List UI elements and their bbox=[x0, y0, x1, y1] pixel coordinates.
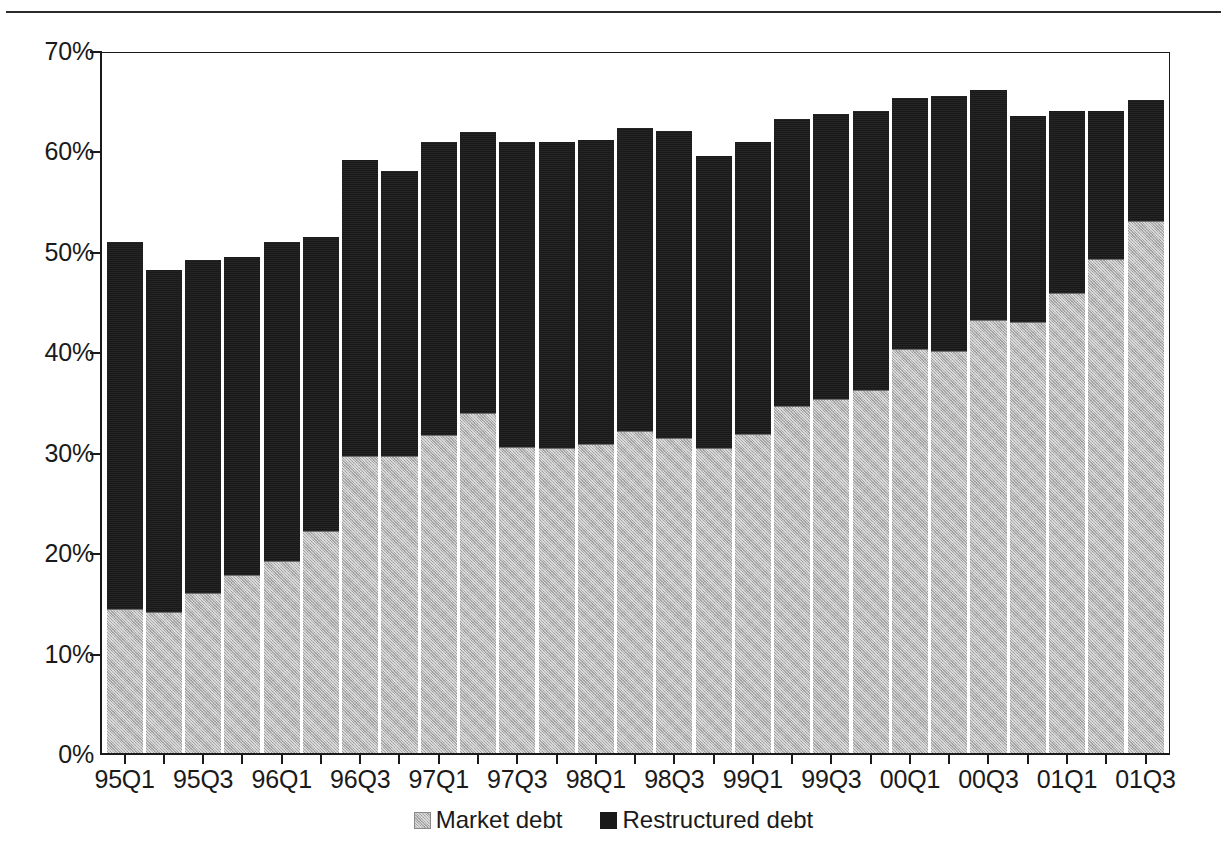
bar-column[interactable] bbox=[381, 53, 417, 753]
bar-segment-market-debt bbox=[813, 399, 849, 754]
bar-segment-market-debt bbox=[185, 593, 221, 753]
bar-segment-restructured-debt bbox=[381, 171, 417, 456]
bar-segment-market-debt bbox=[1010, 322, 1046, 753]
bar-column[interactable] bbox=[185, 53, 221, 753]
bar-column[interactable] bbox=[735, 53, 771, 753]
bar-segment-market-debt bbox=[264, 561, 300, 753]
restructured-debt-swatch bbox=[600, 812, 617, 829]
bar-column[interactable] bbox=[1049, 53, 1085, 753]
bar-segment-restructured-debt bbox=[578, 140, 614, 443]
bar-column[interactable] bbox=[421, 53, 457, 753]
bar-segment-restructured-debt bbox=[421, 142, 457, 434]
bar-segment-market-debt bbox=[381, 456, 417, 753]
bar-segment-market-debt bbox=[735, 434, 771, 753]
bar-column[interactable] bbox=[107, 53, 143, 753]
bar-segment-restructured-debt bbox=[735, 142, 771, 433]
bar-column[interactable] bbox=[1088, 53, 1124, 753]
bar-column[interactable] bbox=[1128, 53, 1164, 753]
x-tick-mark bbox=[1145, 755, 1147, 764]
x-tick-mark bbox=[516, 755, 518, 764]
bar-segment-restructured-debt bbox=[931, 96, 967, 351]
bar-segment-restructured-debt bbox=[264, 242, 300, 561]
bar-segment-market-debt bbox=[224, 575, 260, 753]
x-tick-mark bbox=[477, 755, 479, 764]
bar-column[interactable] bbox=[813, 53, 849, 753]
x-tick-mark bbox=[713, 755, 715, 764]
bar-column[interactable] bbox=[264, 53, 300, 753]
bar-column[interactable] bbox=[303, 53, 339, 753]
bar-segment-market-debt bbox=[342, 456, 378, 753]
bar-segment-market-debt bbox=[303, 531, 339, 753]
stacked-bar-chart: 0%10%20%30%40%50%60%70% 95Q195Q396Q196Q3… bbox=[0, 0, 1227, 867]
bar-segment-restructured-debt bbox=[499, 142, 535, 446]
x-tick-mark bbox=[202, 755, 204, 764]
y-tick-label: 40% bbox=[14, 340, 94, 365]
bar-column[interactable] bbox=[499, 53, 535, 753]
bar-column[interactable] bbox=[656, 53, 692, 753]
y-tick-label: 50% bbox=[14, 240, 94, 265]
x-tick-mark bbox=[281, 755, 283, 764]
bar-column[interactable] bbox=[578, 53, 614, 753]
bar-column[interactable] bbox=[224, 53, 260, 753]
x-tick-mark bbox=[359, 755, 361, 764]
bar-column[interactable] bbox=[970, 53, 1006, 753]
bar-series-container bbox=[102, 53, 1169, 753]
bar-segment-restructured-debt bbox=[970, 90, 1006, 320]
bar-segment-restructured-debt bbox=[460, 132, 496, 412]
bar-segment-market-debt bbox=[931, 351, 967, 753]
bar-segment-restructured-debt bbox=[656, 131, 692, 437]
bar-column[interactable] bbox=[1010, 53, 1046, 753]
legend-item-market-debt[interactable]: Market debt bbox=[414, 806, 563, 834]
bar-segment-market-debt bbox=[107, 609, 143, 753]
x-tick-mark bbox=[595, 755, 597, 764]
x-tick-mark bbox=[124, 755, 126, 764]
bar-segment-restructured-debt bbox=[853, 111, 889, 390]
bar-column[interactable] bbox=[774, 53, 810, 753]
bar-segment-restructured-debt bbox=[1128, 100, 1164, 221]
x-tick-mark bbox=[673, 755, 675, 764]
bar-segment-restructured-debt bbox=[774, 119, 810, 405]
legend-label-market-debt: Market debt bbox=[436, 806, 563, 834]
bar-column[interactable] bbox=[696, 53, 732, 753]
y-tick-label: 10% bbox=[14, 642, 94, 667]
bar-segment-market-debt bbox=[539, 448, 575, 753]
x-tick-mark bbox=[791, 755, 793, 764]
bar-segment-restructured-debt bbox=[342, 160, 378, 455]
x-tick-mark bbox=[752, 755, 754, 764]
bar-column[interactable] bbox=[617, 53, 653, 753]
bar-segment-restructured-debt bbox=[303, 237, 339, 531]
y-tick-label: 20% bbox=[14, 541, 94, 566]
bar-column[interactable] bbox=[539, 53, 575, 753]
x-tick-mark bbox=[1105, 755, 1107, 764]
bar-column[interactable] bbox=[146, 53, 182, 753]
bar-segment-market-debt bbox=[1088, 259, 1124, 753]
x-tick-mark bbox=[830, 755, 832, 764]
y-tick-label: 60% bbox=[14, 139, 94, 164]
x-tick-mark bbox=[1066, 755, 1068, 764]
bar-segment-restructured-debt bbox=[1088, 111, 1124, 259]
bar-segment-market-debt bbox=[696, 448, 732, 753]
bar-column[interactable] bbox=[931, 53, 967, 753]
bar-segment-restructured-debt bbox=[107, 242, 143, 610]
bar-segment-restructured-debt bbox=[224, 257, 260, 575]
bar-segment-restructured-debt bbox=[1010, 116, 1046, 322]
bar-segment-market-debt bbox=[578, 444, 614, 753]
bar-column[interactable] bbox=[342, 53, 378, 753]
x-tick-label: 01Q3 bbox=[1086, 764, 1206, 794]
bar-column[interactable] bbox=[892, 53, 928, 753]
legend-item-restructured-debt[interactable]: Restructured debt bbox=[600, 806, 813, 834]
bar-segment-market-debt bbox=[656, 438, 692, 753]
x-tick-mark bbox=[870, 755, 872, 764]
bar-segment-restructured-debt bbox=[185, 260, 221, 593]
x-tick-mark bbox=[909, 755, 911, 764]
x-tick-mark bbox=[556, 755, 558, 764]
bar-segment-market-debt bbox=[1049, 293, 1085, 753]
x-tick-mark bbox=[634, 755, 636, 764]
bar-segment-market-debt bbox=[970, 320, 1006, 753]
plot-area bbox=[100, 52, 1170, 755]
bar-column[interactable] bbox=[853, 53, 889, 753]
bar-segment-restructured-debt bbox=[539, 142, 575, 447]
bar-column[interactable] bbox=[460, 53, 496, 753]
y-tick-label: 30% bbox=[14, 441, 94, 466]
legend-label-restructured-debt: Restructured debt bbox=[622, 806, 813, 834]
